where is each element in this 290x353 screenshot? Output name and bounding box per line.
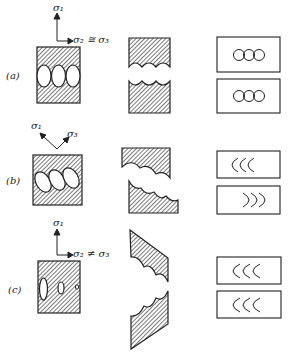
- case-b: [31, 133, 280, 214]
- fracture-diagram: [0, 0, 290, 353]
- fracture-halves-b: [122, 148, 178, 213]
- surface-views-b: [217, 151, 280, 214]
- sigma3-label-b: σ₃: [67, 129, 78, 139]
- sigma1-label-c: σ₁: [53, 218, 64, 228]
- specimen-b: [31, 155, 82, 205]
- lateral-stress-label-c: σ₂ ≠ σ₃: [73, 249, 109, 259]
- surface-views-a: [217, 37, 280, 113]
- stress-axes-a: [54, 13, 73, 44]
- case-a: [37, 13, 280, 113]
- case-label-a: (a): [6, 71, 20, 81]
- stress-axes-c: [54, 229, 73, 258]
- sigma1-label-b: σ₁: [31, 121, 42, 131]
- lateral-stress-label-a: σ₂ ≅ σ₃: [73, 35, 109, 45]
- fracture-halves-c: [130, 230, 168, 349]
- surface-views-c: [217, 257, 281, 318]
- specimen-a: [37, 47, 80, 103]
- specimen-c: [38, 261, 80, 313]
- sigma1-label-a: σ₁: [53, 3, 64, 13]
- case-label-b: (b): [6, 176, 20, 186]
- case-label-c: (c): [8, 285, 21, 295]
- case-c: [38, 229, 281, 349]
- fracture-halves-a: [129, 38, 170, 113]
- stress-axes-b: [40, 133, 69, 149]
